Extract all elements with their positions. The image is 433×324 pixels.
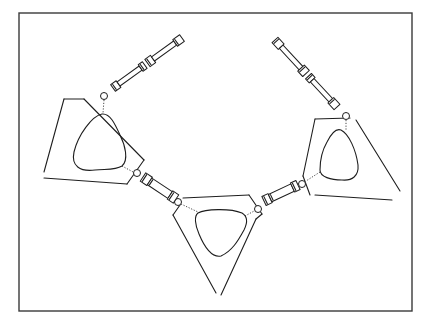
pendant-edge <box>256 214 262 219</box>
jump-ring-icon <box>343 113 350 120</box>
pendant-edge <box>303 119 315 176</box>
pendant-edge <box>44 178 127 184</box>
pendant-edge <box>183 195 249 198</box>
jump-ring-icon <box>134 170 141 177</box>
dotted-link <box>103 100 104 113</box>
dotted-link <box>181 204 198 212</box>
dotted-link <box>245 210 256 216</box>
right-short-clasp <box>262 180 300 205</box>
pendant-cutout <box>73 114 125 170</box>
pendant-cutout <box>195 210 246 257</box>
pendant-edge <box>356 120 400 191</box>
left-long-clasp <box>110 34 184 91</box>
pendant-right <box>303 113 400 201</box>
pendant-edge <box>173 215 216 293</box>
clasp-segment <box>152 41 177 61</box>
jump-ring-icon <box>255 206 262 213</box>
illustration-frame <box>19 13 412 311</box>
dotted-link <box>306 172 320 181</box>
jump-ring-icon <box>101 93 108 100</box>
pendant-edge <box>315 195 392 200</box>
clasp-segment <box>279 45 303 70</box>
clasp-segment <box>147 178 172 198</box>
pendant-center <box>173 195 262 295</box>
necklace-illustration <box>0 0 433 324</box>
right-long-clasp <box>272 37 341 110</box>
pendant-edge <box>173 205 180 215</box>
clasp-segment <box>117 66 142 86</box>
dotted-link <box>122 166 135 173</box>
clasps-group <box>110 34 340 205</box>
pendants-group <box>44 93 400 296</box>
left-short-clasp <box>140 173 179 203</box>
clasp-segment <box>310 79 332 102</box>
pendant-left <box>44 93 144 185</box>
pendant-edge <box>44 99 64 172</box>
pendant-cutout <box>320 130 358 181</box>
pendant-edge <box>84 99 144 160</box>
pendant-edge <box>221 219 256 295</box>
jump-ring-icon <box>299 181 306 188</box>
